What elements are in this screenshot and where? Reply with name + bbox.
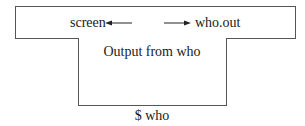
left-arrow-icon	[105, 18, 133, 28]
output-label: Output from who	[78, 44, 226, 60]
command-label: $ who	[78, 108, 226, 124]
screen-label: screen	[70, 15, 106, 31]
who-out-label: who.out	[195, 15, 241, 31]
right-arrow-icon	[163, 18, 191, 28]
output-destination-box	[15, 6, 296, 39]
